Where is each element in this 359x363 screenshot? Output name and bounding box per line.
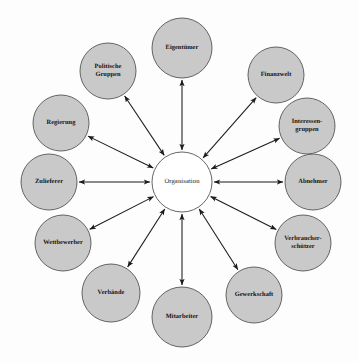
- edge-organisation-politischegruppen: [125, 96, 165, 155]
- stakeholder-diagram: EigentümerFinanzweltInteressen- gruppenA…: [0, 0, 359, 363]
- nodes-layer: [21, 18, 341, 347]
- node-regierung[interactable]: [33, 95, 89, 151]
- node-wettbewerber[interactable]: [35, 215, 91, 271]
- node-politischegruppen[interactable]: [80, 43, 136, 99]
- edge-organisation-verbaende: [128, 209, 165, 267]
- node-verbraucherschuetzer[interactable]: [275, 215, 331, 271]
- node-organisation[interactable]: [152, 152, 212, 212]
- edge-organisation-wettbewerber: [90, 197, 154, 230]
- node-verbaende[interactable]: [82, 264, 140, 322]
- edge-organisation-verbraucherschuetzer: [211, 196, 277, 229]
- node-interessengruppen[interactable]: [279, 98, 335, 154]
- edge-organisation-regierung: [88, 136, 153, 168]
- node-zulieferer[interactable]: [21, 154, 77, 210]
- node-finanzwelt[interactable]: [248, 47, 304, 103]
- diagram-canvas: [0, 0, 359, 363]
- node-abnehmer[interactable]: [285, 154, 341, 210]
- edge-organisation-finanzwelt: [203, 98, 256, 158]
- edge-organisation-interessengruppen: [211, 138, 279, 169]
- node-mitarbeiter[interactable]: [152, 287, 212, 347]
- node-eigentuemer[interactable]: [152, 18, 212, 78]
- node-gewerkschaft[interactable]: [226, 267, 282, 323]
- edge-organisation-gewerkschaft: [199, 209, 238, 270]
